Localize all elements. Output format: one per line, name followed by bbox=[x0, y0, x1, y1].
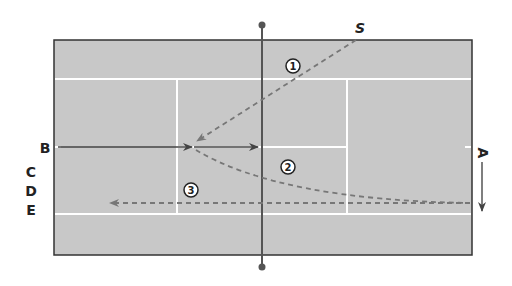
shot-number-3: 3 bbox=[184, 183, 198, 197]
label-D: D bbox=[25, 183, 37, 199]
shot-number-2: 2 bbox=[281, 160, 295, 174]
svg-text:2: 2 bbox=[285, 162, 292, 173]
shot-number-1: 1 bbox=[286, 59, 300, 73]
label-B: B bbox=[40, 140, 51, 156]
label-A: A bbox=[475, 148, 491, 159]
label-S: S bbox=[355, 20, 365, 36]
tennis-court-diagram: 1 2 3 S B C D E A bbox=[0, 0, 512, 286]
net-post-top bbox=[259, 22, 266, 29]
svg-text:3: 3 bbox=[188, 185, 195, 196]
label-E: E bbox=[26, 202, 36, 218]
svg-text:1: 1 bbox=[290, 61, 297, 72]
net-post-bottom bbox=[259, 264, 266, 271]
label-C: C bbox=[26, 164, 36, 180]
